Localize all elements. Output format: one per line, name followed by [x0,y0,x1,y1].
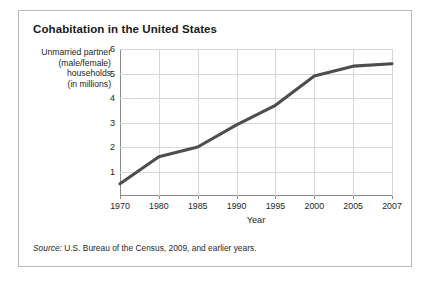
source-label: Source: [33,243,62,253]
y-axis-tick-label: 6 [110,44,115,54]
x-axis-tick-label: 2000 [304,201,324,211]
x-axis-tick-label: 1980 [149,201,169,211]
figure-card: Cohabitation in the United States Unmarr… [18,10,412,267]
x-axis-tick-mark [120,196,121,199]
x-axis-tick-mark [392,196,393,199]
y-axis-title-line-4: (in millions) [25,79,111,90]
x-axis-tick-label: 1995 [266,201,286,211]
chart-plot-wrapper: Unmarried partner (male/female) househol… [19,11,413,231]
x-axis-title: Year [120,215,392,225]
x-axis-tick-mark [314,196,315,199]
y-axis-title-line-2: (male/female) [25,58,111,69]
y-axis-tick-label: 3 [110,118,115,128]
gridline-vertical [392,49,393,196]
source-note: Source: U.S. Bureau of the Census, 2009,… [33,243,256,253]
x-axis-tick-mark [237,196,238,199]
source-text: U.S. Bureau of the Census, 2009, and ear… [62,243,257,253]
x-axis-tick-label: 2007 [382,201,402,211]
x-axis-tick-label: 1970 [110,201,130,211]
x-axis-tick-label: 1990 [227,201,247,211]
y-axis-title-line-1: Unmarried partner [25,47,111,58]
x-axis-tick-mark [353,196,354,199]
y-axis-tick-label: 5 [110,69,115,79]
y-axis-tick-label: 2 [110,142,115,152]
x-axis-tick-mark [159,196,160,199]
y-axis-tick-label: 4 [110,93,115,103]
y-axis-title: Unmarried partner (male/female) househol… [25,47,111,89]
x-axis-tick-mark [198,196,199,199]
x-axis-tick-label: 2005 [343,201,363,211]
plot-area: 123456 19701980198519901995200020052007 [120,49,392,196]
x-axis-tick-mark [275,196,276,199]
x-axis-tick-label: 1985 [188,201,208,211]
y-axis-tick-label: 1 [110,167,115,177]
y-axis-title-line-3: households [25,68,111,79]
data-series-line [120,49,392,196]
